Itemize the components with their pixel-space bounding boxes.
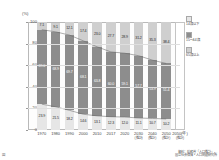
source-note: 資料：総務省「人口推計」、 国立社会保障・人口問題研究所 xyxy=(175,151,217,158)
gridline xyxy=(28,108,180,109)
legend-item: 15〜64歳 xyxy=(186,32,219,44)
legend-swatch xyxy=(186,32,192,38)
y-tick-mark xyxy=(26,130,28,131)
source-line-2: 国立社会保障・人口問題研究所 xyxy=(175,153,217,157)
legend-label: 65歳以上 xyxy=(186,54,199,58)
trend-line xyxy=(42,30,166,64)
corner-mark: 図 xyxy=(2,154,5,158)
gridline xyxy=(28,65,180,66)
x-tick-sublabel-projection: (推計) xyxy=(169,137,191,141)
gridline xyxy=(28,87,180,88)
trend-lines-overlay xyxy=(28,22,180,130)
population-composition-chart: (%) 020406080100 23.969.07.121.568.99.11… xyxy=(0,0,219,160)
y-axis-unit-label: (%) xyxy=(22,12,29,16)
legend-label: 14歳以下 xyxy=(186,23,199,27)
gridline xyxy=(28,44,180,45)
trend-line xyxy=(42,104,166,119)
legend-label: 15〜64歳 xyxy=(186,39,200,43)
legend-item: 65歳以上 xyxy=(186,47,219,59)
chart-legend: 14歳以下15〜64歳65歳以上 xyxy=(186,16,219,63)
legend-item: 14歳以下 xyxy=(186,16,219,28)
